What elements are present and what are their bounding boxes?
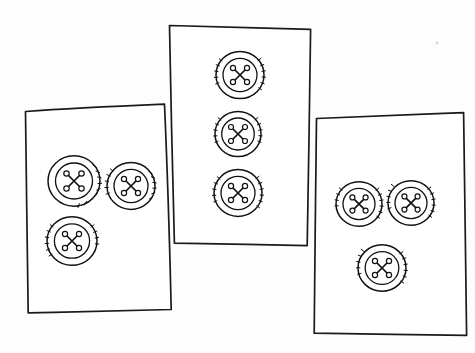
paper-speck — [436, 42, 439, 45]
card-right[interactable] — [314, 113, 466, 336]
middle-button-middle[interactable] — [214, 111, 262, 157]
drawing-surface — [0, 0, 475, 353]
illustration-canvas: Three cards of sewing buttons hand-drawn… — [0, 0, 475, 353]
card-middle[interactable] — [170, 26, 311, 246]
card-left-outline — [26, 104, 172, 313]
card-left[interactable] — [26, 104, 172, 313]
card-right-outline — [314, 113, 466, 336]
